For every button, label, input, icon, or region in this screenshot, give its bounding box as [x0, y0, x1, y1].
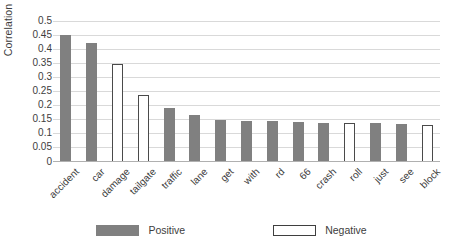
bar-slot: [130, 21, 156, 162]
bar-slot: [259, 21, 285, 162]
x-axis-tick-label: car: [89, 166, 107, 184]
bar-traffic: [164, 108, 175, 162]
x-axis-tick-labels: accidentcardamagetailgatetrafficlanegetw…: [53, 162, 440, 214]
x-axis-tick-label: traffic: [159, 166, 184, 191]
legend-label: Positive: [148, 224, 185, 236]
plot-area: [53, 21, 440, 162]
y-axis-tick-label: 0: [46, 157, 52, 167]
y-axis-tick-label: 0.4: [38, 44, 52, 54]
x-axis-tick-label: just: [371, 166, 390, 185]
x-axis-tick-label: block: [418, 166, 442, 190]
bar-just: [370, 123, 381, 161]
bar-crash: [318, 123, 329, 162]
bar-66: [293, 122, 304, 161]
y-axis-tick-label: 0.5: [38, 16, 52, 26]
bar-slot: [363, 21, 389, 162]
y-axis-tick-label: 0.35: [33, 58, 52, 68]
bar-slot: [414, 21, 440, 162]
y-axis-tick-labels: 0.50.450.40.350.30.250.20.150.10.050: [20, 0, 52, 251]
x-axis-tick-label: roll: [347, 166, 364, 183]
legend-label: Negative: [325, 224, 366, 236]
bar-damage: [112, 64, 123, 161]
chart-legend: PositiveNegative: [0, 219, 463, 241]
bar-car: [86, 43, 97, 161]
bar-tailgate: [138, 95, 149, 161]
x-axis-tick-label: see: [397, 166, 416, 185]
x-axis-tick-label: lane: [189, 166, 210, 187]
legend-item-negative[interactable]: Negative: [273, 224, 366, 236]
y-axis-tick-label: 0.15: [33, 114, 52, 124]
x-axis-tick-label: crash: [314, 166, 339, 191]
x-axis-tick-label: 66: [297, 166, 313, 182]
bar-with: [241, 121, 252, 161]
x-axis-tick-label: tailgate: [127, 166, 158, 197]
bar-slot: [388, 21, 414, 162]
correlation-bar-chart: Correlation 0.50.450.40.350.30.250.20.15…: [0, 0, 463, 251]
bar-slot: [79, 21, 105, 162]
y-axis-tick-label: 0.25: [33, 86, 52, 96]
legend-item-positive[interactable]: Positive: [96, 224, 185, 236]
bar-slot: [53, 21, 79, 162]
bar-slot: [311, 21, 337, 162]
y-axis-tick-label: 0.3: [38, 72, 52, 82]
y-axis-tick-label: 0.05: [33, 142, 52, 152]
x-axis-tick-label: rd: [273, 166, 287, 180]
bar-slot: [234, 21, 260, 162]
bar-slot: [156, 21, 182, 162]
y-axis-tick-label: 0.45: [33, 30, 52, 40]
bar-slot: [285, 21, 311, 162]
bar-get: [215, 120, 226, 162]
legend-swatch-positive: [96, 225, 139, 236]
bar-slot: [337, 21, 363, 162]
y-axis-tick-label: 0.2: [38, 100, 52, 110]
bar-slot: [182, 21, 208, 162]
bar-lane: [189, 115, 200, 162]
x-axis-tick-label: with: [241, 166, 261, 186]
bar-roll: [344, 123, 355, 162]
y-axis-tick-label: 0.1: [38, 128, 52, 138]
bar-block: [422, 125, 433, 162]
bar-see: [396, 124, 407, 162]
bar-slot: [208, 21, 234, 162]
bar-rd: [267, 121, 278, 161]
bar-series: [53, 21, 440, 162]
x-axis-tick-label: get: [218, 166, 236, 184]
legend-swatch-negative: [273, 225, 316, 236]
bar-slot: [105, 21, 131, 162]
bar-accident: [60, 35, 71, 162]
y-axis-title: Correlation: [2, 0, 16, 80]
